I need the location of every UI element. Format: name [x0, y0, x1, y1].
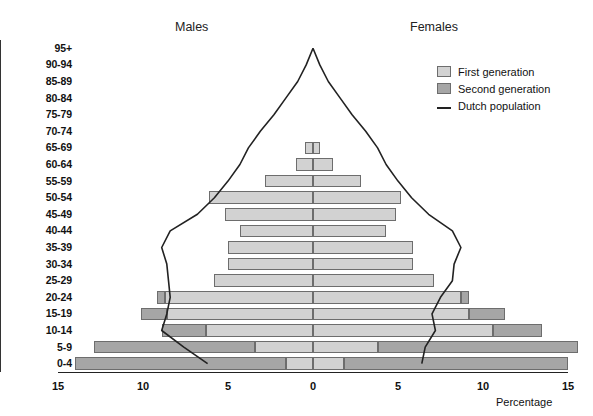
legend-item: Second generation: [437, 80, 550, 97]
pyramid-bar-segment: [461, 291, 470, 304]
pyramid-bar-segment: [378, 341, 579, 354]
x-tick-label: 5: [225, 380, 231, 392]
pyramid-bar-segment: [313, 158, 333, 171]
pyramid-bar-segment: [94, 341, 256, 354]
pyramid-bar-segment: [313, 324, 493, 337]
pyramid-bar-segment: [286, 357, 313, 370]
pyramid-bar-segment: [313, 258, 413, 271]
pyramid-bar-segment: [255, 341, 313, 354]
legend-line-marker-icon: [437, 100, 451, 111]
pyramid-bar-segment: [167, 308, 313, 321]
pyramid-bar-segment: [313, 175, 361, 188]
pyramid-bar-segment: [313, 191, 401, 204]
pyramid-bar-segment: [209, 191, 313, 204]
pyramid-bar-segment: [165, 291, 313, 304]
x-tick-label: 10: [137, 380, 149, 392]
pyramid-bar-segment: [214, 274, 313, 287]
pyramid-bar-segment: [296, 158, 313, 171]
pyramid-bar-segment: [344, 357, 568, 370]
pyramid-bar-segment: [313, 341, 378, 354]
legend-item-label: Dutch population: [458, 100, 541, 112]
center-axis-line: [0, 40, 1, 372]
pyramid-bar-segment: [313, 208, 396, 221]
pyramid-bar-segment: [228, 258, 313, 271]
x-tick-label: 0: [310, 380, 316, 392]
pyramid-bar-segment: [313, 142, 320, 155]
pyramid-bar-segment: [228, 241, 313, 254]
legend-item-label: First generation: [458, 66, 534, 78]
legend-swatch-icon: [437, 83, 451, 94]
x-tick-label: 15: [562, 380, 574, 392]
pyramid-bar-segment: [313, 225, 386, 238]
chart-legend: First generationSecond generationDutch p…: [437, 63, 550, 114]
pyramid-bar-segment: [469, 308, 505, 321]
pyramid-bar-segment: [206, 324, 313, 337]
pyramid-bar-segment: [225, 208, 313, 221]
pyramid-bar-segment: [240, 225, 313, 238]
x-axis-line: [58, 372, 568, 373]
pyramid-bar-segment: [141, 308, 167, 321]
pyramid-bar-segment: [313, 274, 434, 287]
x-tick-label: 15: [52, 380, 64, 392]
x-tick-label: 5: [395, 380, 401, 392]
x-axis-title: Percentage: [496, 396, 552, 408]
pyramid-bar-segment: [265, 175, 313, 188]
pyramid-bar-segment: [313, 357, 344, 370]
population-pyramid-chart: Males Females 95+90-9485-8980-8475-7970-…: [0, 0, 593, 416]
legend-item-label: Second generation: [458, 83, 550, 95]
pyramid-bar-segment: [162, 324, 206, 337]
pyramid-bar-segment: [157, 291, 166, 304]
pyramid-bar-segment: [313, 241, 413, 254]
pyramid-bar-segment: [493, 324, 542, 337]
pyramid-bar-segment: [313, 308, 469, 321]
legend-swatch-icon: [437, 66, 451, 77]
legend-item: Dutch population: [437, 97, 550, 114]
x-tick-label: 10: [477, 380, 489, 392]
legend-item: First generation: [437, 63, 550, 80]
pyramid-bar-segment: [313, 291, 461, 304]
pyramid-bar-segment: [75, 357, 286, 370]
pyramid-bar-segment: [305, 142, 314, 155]
